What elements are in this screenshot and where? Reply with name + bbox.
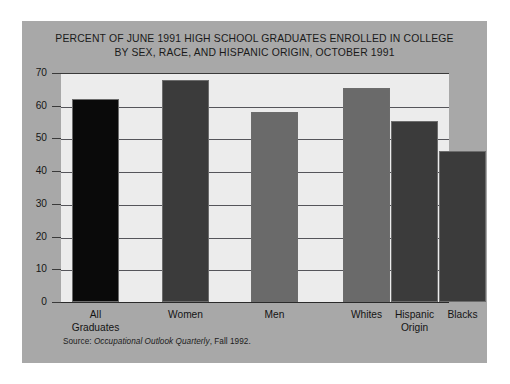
- y-tick-label-0: 0: [21, 296, 47, 307]
- x-axis-label-all-graduates: All Graduates: [50, 309, 141, 334]
- y-tick-mark-30: [52, 204, 61, 205]
- x-axis-label-blacks: Blacks: [417, 309, 508, 322]
- y-tick-mark-50: [52, 138, 61, 139]
- y-tick-mark-40: [52, 171, 61, 172]
- y-tick-mark-0: [52, 302, 61, 303]
- y-tick-mark-60: [52, 106, 61, 107]
- bar-whites: [343, 88, 390, 302]
- x-axis-label-men: Men: [229, 309, 320, 322]
- chart-card-panel: PERCENT OF JUNE 1991 HIGH SCHOOL GRADUAT…: [22, 21, 487, 363]
- source-suffix-text: , Fall 1992.: [210, 337, 251, 346]
- source-prefix-text: Source:: [63, 337, 94, 346]
- bar-blacks: [439, 151, 486, 302]
- source-publication-title: Occupational Outlook Quarterly: [94, 337, 210, 346]
- y-tick-label-60: 60: [21, 100, 47, 111]
- source-note: Source: Occupational Outlook Quarterly, …: [63, 337, 251, 346]
- x-axis-label-women: Women: [140, 309, 231, 322]
- bar-all-graduates: [72, 99, 119, 302]
- y-tick-mark-20: [52, 237, 61, 238]
- y-tick-label-30: 30: [21, 198, 47, 209]
- bar-men: [251, 112, 298, 302]
- y-tick-label-50: 50: [21, 132, 47, 143]
- gridline-60: [61, 107, 449, 108]
- bar-hispanic-origin: [391, 121, 438, 302]
- y-tick-mark-10: [52, 269, 61, 270]
- bar-women: [162, 80, 209, 302]
- y-tick-label-40: 40: [21, 165, 47, 176]
- y-tick-label-10: 10: [21, 263, 47, 274]
- x-axis-baseline: [53, 302, 449, 303]
- page-title: PERCENT OF JUNE 1991 HIGH SCHOOL GRADUAT…: [22, 32, 487, 59]
- y-tick-label-20: 20: [21, 231, 47, 242]
- chart-figure: PERCENT OF JUNE 1991 HIGH SCHOOL GRADUAT…: [0, 0, 510, 384]
- y-tick-label-70: 70: [21, 67, 47, 78]
- y-tick-mark-70: [52, 73, 61, 74]
